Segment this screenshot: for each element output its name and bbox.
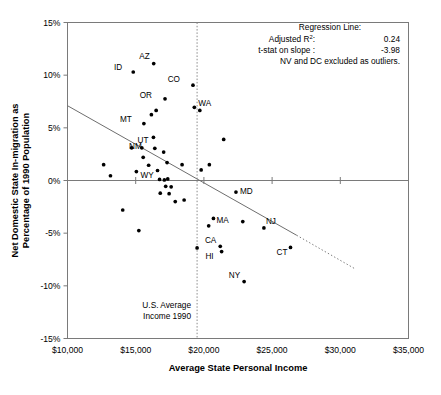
data-point [207, 224, 211, 228]
data-point [153, 147, 157, 151]
y-tick-label-6: -15% [40, 334, 60, 344]
y-tick-label-1: 10% [43, 70, 61, 80]
point-label-id: ID [114, 63, 122, 72]
data-point [166, 177, 170, 181]
excluded-outliers-note: NV and DC excluded as outliers. [280, 56, 400, 66]
point-label-nj: NJ [266, 217, 276, 226]
point-label-nm: NM [129, 142, 142, 151]
data-point [198, 109, 202, 113]
y-tick-label-3: 0% [48, 176, 61, 186]
adjusted-r2-label: Adjusted R2: [269, 34, 315, 44]
regression-line-extension [297, 235, 356, 269]
data-point [152, 62, 156, 66]
point-label-ct: CT [277, 248, 288, 257]
data-point [195, 246, 199, 250]
y-axis-title-line-2: Percentage of 1990 Population [21, 112, 31, 248]
data-point [262, 226, 266, 230]
y-tick-label-5: -10% [40, 281, 60, 291]
x-axis-title: Average State Personal Income [169, 363, 308, 373]
data-point [162, 178, 166, 182]
point-label-or: OR [140, 91, 152, 100]
scatter-plot: U.S. AverageIncome 1990 IDAZMTUTNMORWYCO… [0, 0, 441, 395]
y-tick-label-4: -5% [45, 228, 61, 238]
point-label-wa: WA [198, 99, 211, 108]
x-tick-label-5: $35,000 [393, 345, 424, 355]
x-tick-label-4: $30,000 [325, 345, 356, 355]
data-point [218, 244, 222, 248]
point-label-co: CO [168, 75, 180, 84]
data-point [167, 192, 171, 196]
x-tick-label-0: $10,000 [52, 345, 83, 355]
data-point [154, 109, 158, 113]
data-point [234, 190, 238, 194]
data-point [208, 163, 212, 167]
us-average-label-line-1: U.S. Average [142, 300, 191, 310]
data-point [212, 217, 216, 221]
point-label-hi: HI [205, 252, 213, 261]
y-tick-label-0: 15% [43, 18, 61, 28]
data-point [193, 105, 197, 109]
x-tick-label-3: $25,000 [257, 345, 288, 355]
data-point [158, 191, 162, 195]
data-point [165, 161, 169, 165]
point-labels-group: IDAZMTUTNMORWYCOWAMDMANJCAHINYCT [114, 52, 287, 280]
data-point [220, 250, 224, 254]
data-point [142, 122, 146, 126]
y-tick-label-2: 5% [48, 123, 61, 133]
data-point [121, 208, 125, 212]
data-point [109, 174, 113, 178]
point-label-wy: WY [141, 171, 155, 180]
data-point [199, 168, 203, 172]
data-point [163, 97, 167, 101]
point-label-ny: NY [229, 271, 241, 280]
data-point [242, 280, 246, 284]
data-point [141, 155, 145, 159]
y-axis-title-line-1: Net Domestic State In-migration as [10, 104, 20, 258]
regression-annotation-group: Regression Line:Adjusted R2:0.24t-stat o… [258, 22, 400, 66]
x-tick-label-1: $15,000 [120, 345, 151, 355]
x-tick-label-2: $20,000 [188, 345, 219, 355]
data-point [137, 229, 141, 233]
chart-figure: U.S. AverageIncome 1990 IDAZMTUTNMORWYCO… [0, 0, 441, 395]
data-point [169, 185, 173, 189]
point-label-ca: CA [205, 236, 217, 245]
data-point [191, 83, 195, 87]
data-point [164, 184, 168, 188]
point-label-mt: MT [120, 115, 132, 124]
axis-ticks-group: $10,000$15,000$20,000$25,000$30,000$35,0… [40, 18, 424, 355]
data-point [241, 220, 245, 224]
data-point [131, 70, 135, 74]
data-point [152, 135, 156, 139]
data-point [102, 163, 106, 167]
data-point [135, 170, 139, 174]
us-average-label-line-2: Income 1990 [143, 311, 191, 321]
t-stat-label: t-stat on slope : [258, 45, 315, 55]
point-label-az: AZ [139, 52, 149, 61]
data-point [180, 163, 184, 167]
regression-heading: Regression Line: [299, 22, 361, 32]
point-label-md: MD [240, 187, 253, 196]
data-point [147, 163, 151, 167]
data-point [156, 169, 160, 173]
data-point [158, 178, 162, 182]
data-point [162, 150, 166, 154]
data-point [289, 246, 293, 250]
data-point [173, 200, 177, 204]
point-label-ma: MA [216, 216, 229, 225]
data-point [150, 113, 154, 117]
data-point [222, 138, 226, 142]
adjusted-r2-value: 0.24 [384, 34, 401, 44]
regression-line-solid [68, 106, 297, 236]
data-point [182, 198, 186, 202]
t-stat-value: -3.98 [381, 45, 400, 55]
